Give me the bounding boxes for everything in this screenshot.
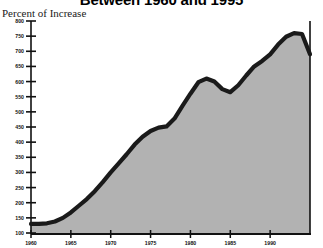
x-axis-tick-label: 1970 [105,240,117,246]
y-axis-tick-label: 200 [15,200,24,206]
y-axis-tick-label: 350 [15,154,24,160]
y-axis-tick-label: 700 [15,48,24,54]
x-axis-tick-label: 1960 [25,240,37,246]
y-axis-tick-label: 300 [15,169,24,175]
area-chart-svg: 8007507006506005505004504003503002502001… [0,0,323,248]
y-axis-tick-label: 650 [15,63,24,69]
y-axis-tick-label: 450 [15,124,24,130]
x-axis-tick-label: 1985 [225,240,237,246]
y-axis-tick-label: 550 [15,94,24,100]
y-axis-tick-label: 100 [15,230,24,236]
chart-plot-area: 8007507006506005505004504003503002502001… [0,0,323,248]
y-axis-tick-label: 800 [15,18,24,24]
y-axis-tick-label: 750 [15,33,24,39]
y-axis-ticks: 8007507006506005505004504003503002502001… [15,18,36,236]
y-axis-tick-label: 400 [15,139,24,145]
y-axis-tick-label: 600 [15,79,24,85]
y-axis-tick-label: 150 [15,215,24,221]
y-axis-tick-label: 250 [15,185,24,191]
x-axis-tick-label: 1990 [264,240,276,246]
x-axis-tick-label: 1965 [65,240,77,246]
area-fill [31,33,310,233]
x-axis-tick-label: 1975 [145,240,157,246]
y-axis-tick-label: 500 [15,109,24,115]
x-axis-tick-label: 1980 [185,240,197,246]
chart-screenshot: Between 1960 and 1995 Percent of Increas… [0,0,323,248]
